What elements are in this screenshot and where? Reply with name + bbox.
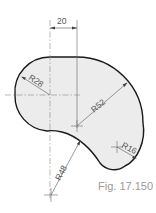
arrowhead-left: [50, 27, 55, 30]
dimension-label-20: 20: [57, 16, 67, 26]
arrowhead-r48: [77, 140, 81, 146]
figure-caption: Fig. 17.150: [98, 180, 153, 192]
arrowhead-right: [72, 27, 77, 30]
